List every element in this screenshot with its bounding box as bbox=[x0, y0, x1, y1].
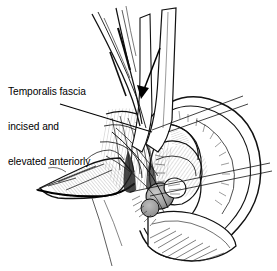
surgical-illustration-figure: Temporalis fascia incised and elevated a… bbox=[0, 0, 277, 271]
annotation-caption: Temporalis fascia incised and elevated a… bbox=[8, 63, 140, 191]
caption-line-2: incised and bbox=[8, 121, 140, 133]
caption-line-1: Temporalis fascia bbox=[8, 86, 140, 98]
caption-line-3: elevated anteriorly bbox=[8, 156, 140, 168]
